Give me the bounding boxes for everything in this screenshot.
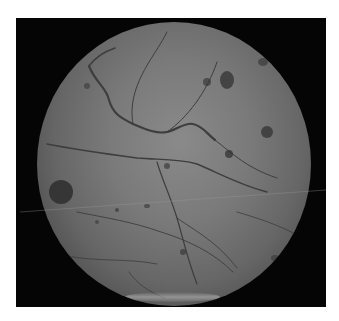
glare-reflection — [125, 292, 220, 302]
vessels-and-lesions — [37, 22, 311, 306]
retina-fundus — [37, 22, 311, 306]
image-frame — [16, 18, 326, 307]
